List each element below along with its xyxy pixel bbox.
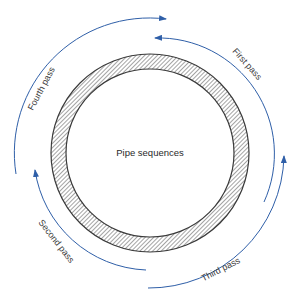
first-pass-label: First pass [230, 46, 264, 82]
third-pass-label: Third pass [200, 255, 242, 283]
second-pass-label: Second pass [36, 218, 76, 266]
pipe-welding-diagram: Pipe sequences First pass Second pass Th… [0, 0, 302, 304]
center-label: Pipe sequences [116, 147, 184, 158]
